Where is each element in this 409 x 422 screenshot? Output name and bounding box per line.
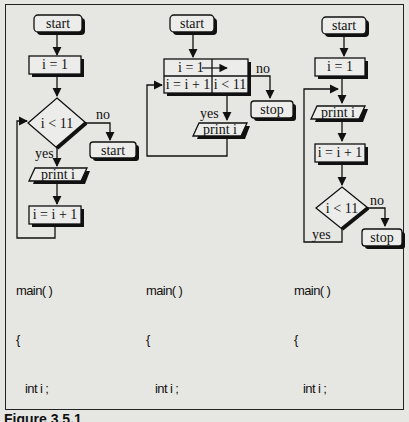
while-init-node: i = 1 [42,57,68,72]
do-print-node: print i [321,105,355,120]
do-yes-label: yes [312,227,331,242]
code-line: { [294,332,387,348]
while-yes-label: yes [35,146,54,161]
code-line: int i ; [146,381,284,397]
code-line: main( ) [294,283,387,299]
for-end-node: stop [260,102,283,117]
do-no-label: no [370,193,384,208]
code-line: main( ) [16,283,96,299]
for-yes-label: yes [200,106,219,121]
flowchart-do-while: start i = 1 print i i = i + 1 i < 11 no … [304,17,405,249]
for-print-node: print i [203,122,237,137]
code-for-loop: main( ) { int i ; for ( i = 1, i < 11, i… [146,251,284,422]
for-no-label: no [256,61,270,76]
flowchart-for: start i = 1 i = i + 1 i < 11 no stop yes… [147,15,296,156]
while-print-node: print i [41,167,75,182]
do-increment-node: i = i + 1 [318,145,363,160]
while-start-node: start [46,16,70,31]
do-start-node: start [332,18,356,33]
code-line: int i ; [16,381,96,397]
code-line: { [146,332,284,348]
while-increment-node: i = i + 1 [33,207,78,222]
while-no-label: no [96,107,110,122]
do-init-node: i = 1 [327,59,353,74]
for-increment-node: i = i + 1 [166,77,211,92]
for-init-node: i = 1 [178,60,204,75]
code-do-while-loop: main( ) { int i ; i = 1 ; do { cout << i… [294,251,387,422]
flowchart-while: start i = 1 i < 11 no start yes print i … [17,15,139,238]
do-condition-node: i < 11 [326,201,358,216]
for-start-node: start [180,16,204,31]
code-line: int i ; [294,381,387,397]
figure-caption: Figure 3.5.1 [4,411,82,422]
do-end-node: stop [370,230,393,245]
while-condition-node: i < 11 [41,116,73,131]
code-line: { [16,332,96,348]
for-condition-node: i < 11 [214,77,246,92]
while-end-node: start [101,143,125,158]
code-line: main( ) [146,283,284,299]
code-while-loop: main( ) { int i ; i = 1 ; while ( i < 11… [16,251,96,422]
